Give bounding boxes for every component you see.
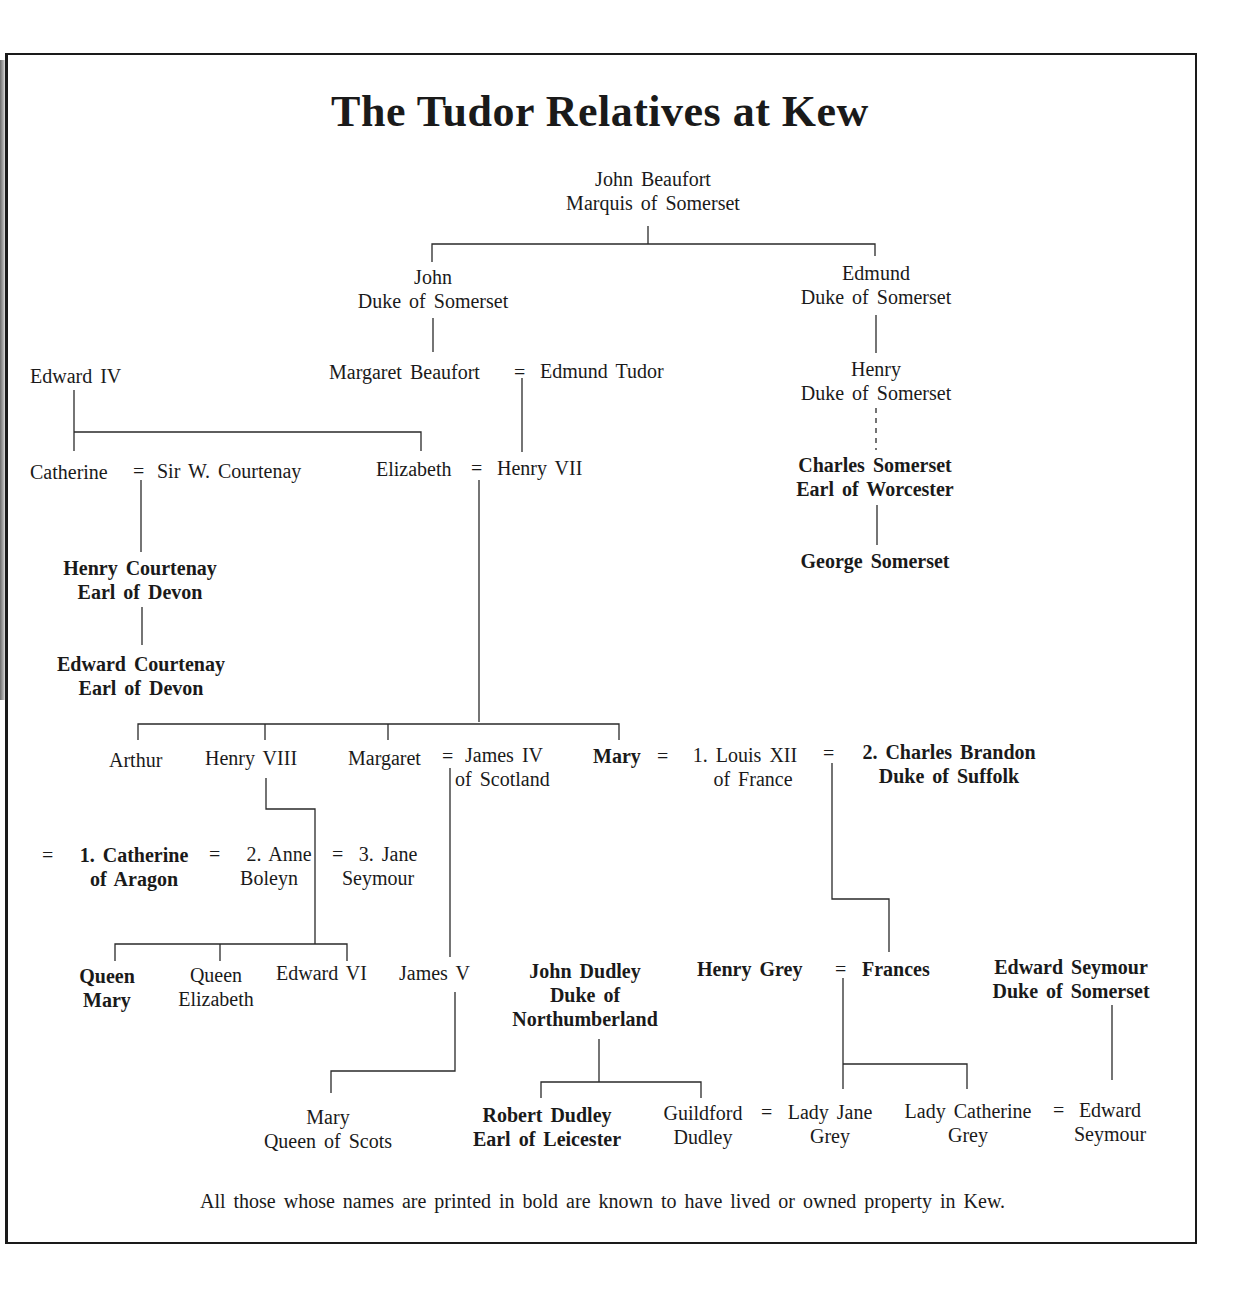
- node-sir-w-courtenay: Sir W. Courtenay: [157, 459, 301, 483]
- marriage-symbol: =: [761, 1100, 772, 1124]
- node-edward-iv: Edward IV: [30, 364, 121, 388]
- marriage-symbol: =: [209, 842, 220, 866]
- footnote: All those whose names are printed in bol…: [0, 1190, 1205, 1213]
- node-margaret-beaufort: Margaret Beaufort: [329, 360, 480, 384]
- node-henry-viii: Henry VIII: [205, 746, 297, 770]
- marriage-symbol: =: [514, 360, 525, 384]
- node-edward-seymour-duke: Edward SeymourDuke of Somerset: [968, 955, 1174, 1003]
- node-elizabeth: Elizabeth: [376, 457, 452, 481]
- node-edward-seymour: EdwardSeymour: [1062, 1098, 1158, 1146]
- node-guildford-dudley: GuildfordDudley: [655, 1101, 751, 1149]
- node-john-dudley: John DudleyDuke ofNorthumberland: [485, 959, 685, 1031]
- node-queen-elizabeth: QueenElizabeth: [166, 963, 266, 1011]
- node-lady-catherine-grey: Lady CatherineGrey: [893, 1099, 1043, 1147]
- node-mary-tudor: Mary: [593, 744, 641, 768]
- node-anne-boleyn: 2. AnneBoleyn: [224, 842, 314, 890]
- node-robert-dudley: Robert DudleyEarl of Leicester: [454, 1103, 640, 1151]
- node-mary-queen-of-scots: MaryQueen of Scots: [248, 1105, 408, 1153]
- node-henry-vii: Henry VII: [497, 456, 582, 480]
- node-henry-grey: Henry Grey: [697, 957, 802, 981]
- node-henry-duke-of-somerset: HenryDuke of Somerset: [776, 357, 976, 405]
- node-edmund-tudor: Edmund Tudor: [540, 359, 664, 383]
- marriage-symbol: =: [133, 459, 144, 483]
- node-queen-mary: QueenMary: [65, 964, 149, 1012]
- node-jane-seymour: 3. JaneSeymour: [333, 842, 423, 890]
- marriage-symbol: =: [42, 843, 53, 867]
- node-james-v: James V: [399, 961, 470, 985]
- marriage-symbol: =: [471, 456, 482, 480]
- node-catherine-of-aragon: 1. Catherineof Aragon: [64, 843, 204, 891]
- node-frances: Frances: [862, 957, 930, 981]
- node-catherine: Catherine: [30, 460, 108, 484]
- node-henry-courtenay: Henry CourtenayEarl of Devon: [30, 556, 250, 604]
- node-john-beaufort: John BeaufortMarquis of Somerset: [548, 167, 758, 215]
- marriage-symbol: =: [442, 744, 453, 768]
- node-charles-somerset: Charles SomersetEarl of Worcester: [772, 453, 978, 501]
- marriage-symbol: =: [657, 744, 668, 768]
- node-george-somerset: George Somerset: [772, 549, 978, 573]
- marriage-symbol: =: [835, 957, 846, 981]
- node-louis-xii: 1. Louis XIIof France: [680, 743, 810, 791]
- node-edmund-duke-of-somerset: EdmundDuke of Somerset: [776, 261, 976, 309]
- node-charles-brandon: 2. Charles BrandonDuke of Suffolk: [842, 740, 1056, 788]
- node-john-duke-of-somerset: JohnDuke of Somerset: [333, 265, 533, 313]
- node-james-iv: James IVof Scotland: [455, 743, 550, 791]
- node-margaret: Margaret: [348, 746, 421, 770]
- marriage-symbol: =: [823, 741, 834, 765]
- node-lady-jane-grey: Lady JaneGrey: [780, 1100, 880, 1148]
- node-arthur: Arthur: [109, 748, 162, 772]
- node-edward-courtenay: Edward CourtenayEarl of Devon: [30, 652, 252, 700]
- node-edward-vi: Edward VI: [276, 961, 367, 985]
- page-title: The Tudor Relatives at Kew: [0, 86, 1200, 137]
